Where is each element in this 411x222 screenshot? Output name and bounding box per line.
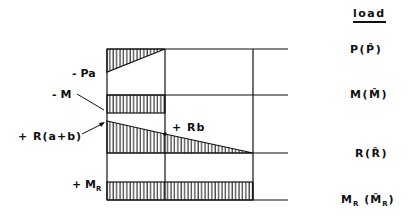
legend-mr-paren-close: ) [389,193,395,206]
legend-row-r: R(R̂) [355,147,388,160]
m-moment-region [107,95,165,113]
label-mr-main: + M [72,178,96,191]
m-leader-line [77,94,104,110]
legend-mr-main: M [341,193,353,206]
moment-diagram [0,0,411,222]
label-m: - M [52,88,71,101]
p-moment-region [107,49,165,72]
legend-mr-sub: R [353,200,359,208]
legend-row-mr: MR (M̂R) [341,193,395,208]
legend-row-m: M(M̂) [350,88,388,101]
mr-moment-region [107,182,253,200]
label-rb: + Rb [172,121,205,134]
legend-mr-paren-main: M̂ [370,193,382,206]
legend-row-p: P(P̂) [350,43,382,56]
label-pa: - Pa [72,67,96,80]
label-mr: + MR [72,178,101,193]
arrow-head-icon [99,122,105,127]
label-r-ab: + R(a+b) [18,130,82,143]
label-mr-sub: R [96,185,101,193]
legend-header: load [353,7,386,23]
